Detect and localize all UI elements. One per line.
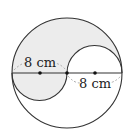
left-center-point xyxy=(38,71,42,75)
left-radius-label: 8 cm xyxy=(24,55,56,70)
right-center-point xyxy=(93,71,97,75)
right-radius-label: 8 cm xyxy=(79,76,111,91)
middle-point xyxy=(65,71,69,75)
diagram: 8 cm 8 cm xyxy=(0,0,132,139)
